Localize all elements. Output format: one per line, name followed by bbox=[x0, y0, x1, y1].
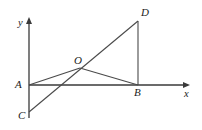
segment-C-D bbox=[29, 21, 138, 112]
point-label-A: A bbox=[15, 79, 22, 90]
geometry-figure: A B C D O y x bbox=[0, 0, 202, 130]
point-label-D: D bbox=[141, 7, 149, 18]
geometry-canvas bbox=[0, 0, 202, 130]
x-axis-label: x bbox=[184, 89, 189, 100]
x-axis bbox=[29, 82, 190, 88]
point-label-B: B bbox=[134, 87, 141, 98]
point-label-C: C bbox=[18, 110, 25, 121]
y-axis bbox=[26, 17, 32, 118]
y-axis-arrowhead-icon bbox=[26, 17, 32, 24]
point-label-O: O bbox=[74, 55, 82, 66]
y-axis-label: y bbox=[18, 18, 23, 29]
segment-O-B bbox=[80, 68, 138, 85]
